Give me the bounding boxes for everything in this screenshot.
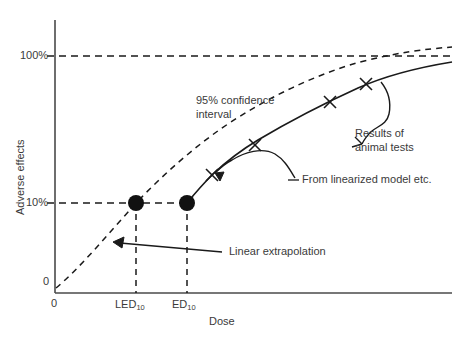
y-tick-label-10pct: 10% bbox=[26, 196, 48, 210]
x-tick-ed-text: ED bbox=[172, 298, 187, 310]
annotation-results-line1: Results of bbox=[355, 127, 414, 141]
x-tick-led-subscript: 10 bbox=[136, 303, 144, 312]
plot-canvas bbox=[0, 0, 459, 339]
marker-led10 bbox=[128, 195, 144, 211]
marker-ed10 bbox=[179, 195, 195, 211]
x-tick-label-led10: LED10 bbox=[115, 298, 145, 312]
annotation-confidence-line2: interval bbox=[196, 108, 274, 122]
annotation-confidence-interval: 95% confidence interval bbox=[196, 94, 274, 122]
annotation-results-line2: animal tests bbox=[355, 141, 414, 155]
cross-marker-4 bbox=[360, 78, 372, 90]
x-tick-label-ed10: ED10 bbox=[172, 298, 196, 312]
cross-marker-3 bbox=[324, 96, 336, 108]
annotation-linearized-model: From linearized model etc. bbox=[302, 173, 432, 187]
annotation-linear-extrapolation: Linear extrapolation bbox=[229, 245, 326, 259]
extrapolation-arrowhead bbox=[113, 237, 124, 248]
dose-response-figure: Adverse effects Dose 100% 10% 0 0 LED10 … bbox=[0, 0, 459, 339]
annotation-results-animal-tests: Results of animal tests bbox=[355, 127, 414, 155]
y-tick-label-100pct: 100% bbox=[20, 49, 48, 63]
x-axis-title: Dose bbox=[209, 315, 235, 329]
annotation-confidence-line1: 95% confidence bbox=[196, 94, 274, 108]
linearized-leader bbox=[215, 151, 295, 178]
y-origin-label: 0 bbox=[43, 275, 49, 289]
x-origin-label: 0 bbox=[51, 297, 57, 311]
x-tick-led-text: LED bbox=[115, 298, 136, 310]
x-tick-ed-subscript: 10 bbox=[187, 303, 195, 312]
